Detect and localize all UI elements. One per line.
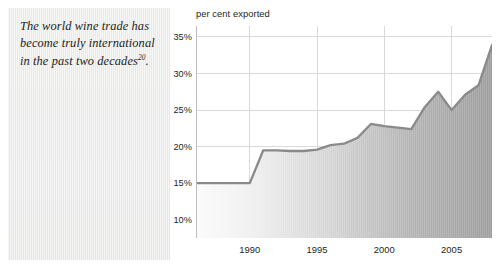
chart-axis-title: per cent exported — [196, 8, 270, 19]
x-axis-tick-label: 2000 — [374, 244, 395, 255]
pull-quote-text: The world wine trade has become truly in… — [20, 19, 155, 68]
pull-quote-period: . — [146, 54, 149, 68]
chart-svg — [196, 26, 492, 238]
y-axis-tick-label: 35% — [173, 32, 192, 42]
y-axis-tick-label: 15% — [173, 178, 192, 188]
x-axis-tick-label: 1990 — [239, 244, 260, 255]
x-axis-tick-label: 1995 — [307, 244, 328, 255]
x-axis-tick-label: 2005 — [441, 244, 462, 255]
y-axis-tick-label: 10% — [173, 215, 192, 225]
y-axis-tick-label: 20% — [173, 142, 192, 152]
chart-block: per cent exported — [176, 8, 492, 270]
y-axis-tick-label: 25% — [173, 105, 192, 115]
y-axis-tick-label: 30% — [173, 69, 192, 79]
plot-area: 35%30%25%20%15%10% 1990199520002005 — [196, 26, 492, 238]
pull-quote: The world wine trade has become truly in… — [20, 18, 162, 70]
page-root: The world wine trade has become truly in… — [0, 0, 499, 277]
footnote-marker: 20 — [138, 53, 146, 62]
quote-panel: The world wine trade has become truly in… — [8, 8, 170, 260]
